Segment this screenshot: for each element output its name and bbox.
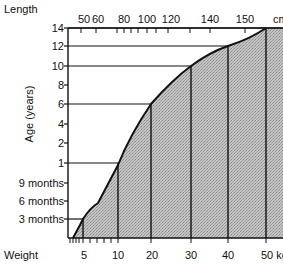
- top-tick-label: 120: [162, 13, 180, 25]
- bottom-ticks: [70, 238, 266, 243]
- top-ticks: [81, 28, 245, 33]
- bottom-tick-label: 40: [222, 249, 234, 261]
- y-tick-label: 14: [4, 22, 64, 34]
- bottom-tick-label: 10: [112, 249, 124, 261]
- bottom-tick-label: 30: [185, 249, 197, 261]
- area-fill: [73, 28, 283, 238]
- y-tick-label: 3 months: [4, 213, 64, 225]
- weight-unit-label: 50 kg: [261, 249, 283, 261]
- y-tick-label: 6 months: [4, 195, 64, 207]
- bottom-tick-label: 20: [146, 249, 158, 261]
- length-axis-title: Length: [4, 3, 38, 15]
- y-tick-label: 10: [4, 60, 64, 72]
- y-tick-label: 9 months: [4, 177, 64, 189]
- y-tick-label: 1: [4, 157, 64, 169]
- bottom-tick-label: 5: [81, 249, 87, 261]
- top-tick-label: 50: [78, 13, 90, 25]
- length-unit: cm: [273, 13, 283, 25]
- top-tick-label: 140: [201, 13, 219, 25]
- top-tick-label: 60: [92, 13, 104, 25]
- age-axis-title: Age (years): [23, 79, 35, 149]
- weight-axis-title: Weight: [4, 249, 38, 261]
- top-tick-label: 100: [138, 13, 156, 25]
- top-tick-label: 150: [236, 13, 254, 25]
- top-tick-label: 80: [118, 13, 130, 25]
- y-tick-label: 12: [4, 40, 64, 52]
